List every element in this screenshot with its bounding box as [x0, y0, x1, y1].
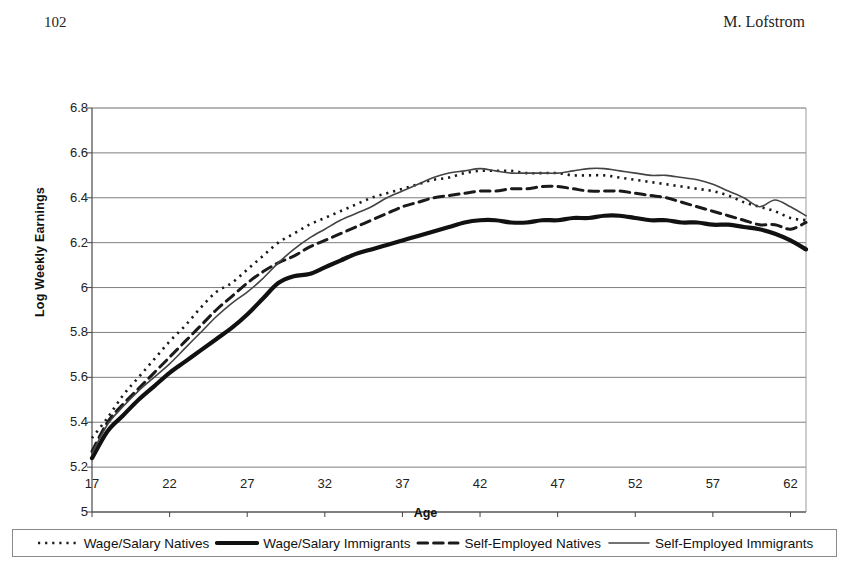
legend-item: Wage/Salary Immigrants	[215, 536, 410, 551]
x-tick-label: 52	[615, 476, 655, 491]
plot-svg	[0, 40, 851, 520]
y-tick-label: 6	[44, 280, 88, 295]
x-tick-label: 37	[382, 476, 422, 491]
legend-item: Self-Employed Immigrants	[607, 536, 813, 551]
legend-label: Wage/Salary Immigrants	[263, 536, 410, 551]
page-number: 102	[44, 14, 67, 31]
y-axis-tick-labels: 55.25.45.65.866.26.46.66.8	[42, 40, 88, 520]
y-tick-label: 6.8	[44, 100, 88, 115]
x-tick-label: 22	[150, 476, 190, 491]
y-tick-label: 5.4	[44, 414, 88, 429]
x-tick-label: 57	[693, 476, 733, 491]
legend-key-icon	[36, 537, 80, 549]
y-tick-label: 5.2	[44, 459, 88, 474]
x-tick-label: 32	[305, 476, 345, 491]
y-tick-label: 6.2	[44, 235, 88, 250]
x-tick-label: 62	[770, 476, 810, 491]
chart-area: Log Weekly Earnings 55.25.45.65.866.26.4…	[0, 40, 851, 520]
y-tick-label: 6.4	[44, 190, 88, 205]
page-header: 102 M. Lofstrom	[0, 0, 851, 40]
legend-label: Self-Employed Immigrants	[655, 536, 813, 551]
x-tick-label: 17	[72, 476, 112, 491]
y-tick-label: 5.8	[44, 324, 88, 339]
legend-label: Self-Employed Natives	[464, 536, 601, 551]
series-line-3	[92, 168, 806, 453]
y-tick-label: 5.6	[44, 369, 88, 384]
legend-item: Self-Employed Natives	[416, 536, 601, 551]
chart-legend: Wage/Salary NativesWage/Salary Immigrant…	[12, 529, 837, 557]
legend-label: Wage/Salary Natives	[84, 536, 210, 551]
x-tick-label: 47	[538, 476, 578, 491]
series-line-1	[92, 215, 806, 458]
legend-key-icon	[607, 537, 651, 549]
x-tick-label: 27	[227, 476, 267, 491]
y-tick-label: 6.6	[44, 145, 88, 160]
x-tick-label: 42	[460, 476, 500, 491]
legend-key-icon	[215, 537, 259, 549]
legend-key-icon	[416, 537, 460, 549]
x-axis-title: Age	[0, 506, 851, 520]
legend-item: Wage/Salary Natives	[36, 536, 210, 551]
running-head: M. Lofstrom	[723, 13, 805, 31]
figure: Log Weekly Earnings 55.25.45.65.866.26.4…	[0, 40, 851, 564]
series-line-0	[92, 171, 806, 438]
